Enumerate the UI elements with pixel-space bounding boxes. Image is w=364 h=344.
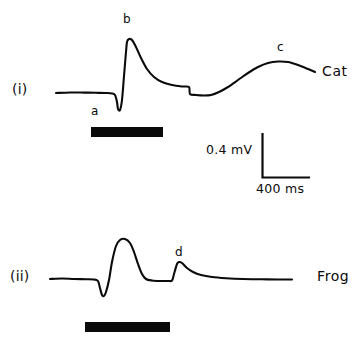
stimulus-bar-frog: [85, 322, 170, 332]
scale-voltage-label: 0.4 mV: [206, 144, 252, 157]
trace-line-frog: [50, 239, 292, 296]
wave-mark-c: c: [277, 41, 284, 53]
panel-label-i: (i): [12, 82, 27, 96]
wave-mark-a: a: [91, 105, 98, 117]
stimulus-bar-cat: [91, 127, 163, 137]
trace-canvas: [0, 0, 364, 344]
species-label-frog: Frog: [317, 269, 349, 283]
wave-mark-d: d: [175, 246, 183, 258]
scale-bar-lines: [263, 133, 311, 178]
scale-time-label: 400 ms: [256, 183, 304, 196]
species-label-cat: Cat: [322, 64, 348, 78]
scale-bar: [263, 133, 311, 178]
panel-label-ii: (ii): [10, 269, 30, 283]
wave-mark-b: b: [123, 13, 131, 25]
electrophysiology-figure: (i) Cat a b c 0.4 mV 400 ms (ii) Frog d: [0, 0, 364, 344]
